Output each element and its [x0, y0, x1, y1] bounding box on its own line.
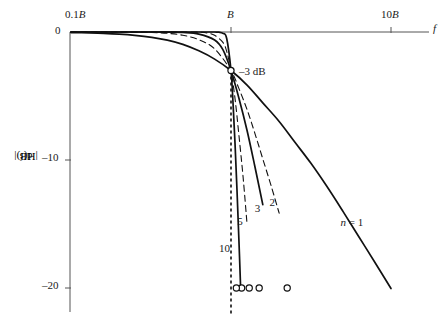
- y-tick-label-minus10: –10: [42, 151, 59, 163]
- y-axis-title: |H(f)|dB: [18, 122, 34, 192]
- curve-n-10: [71, 32, 241, 290]
- data-marker-n-1: [284, 285, 290, 291]
- y-axis-title-subscript: dB: [20, 151, 33, 163]
- curve-n-5: [71, 32, 247, 224]
- x-tick-label-B: B: [227, 8, 234, 20]
- data-marker-n-10: [233, 285, 239, 291]
- x-axis-title: f: [433, 22, 436, 34]
- x-tick-label-0.1B: 0.1B: [65, 8, 85, 20]
- curve-label-n1: n = 1: [341, 216, 364, 228]
- y-tick-label-0: 0: [55, 24, 61, 36]
- curve-label-2: 2: [269, 196, 275, 208]
- curve-label-10: 10: [219, 242, 230, 254]
- butterworth-frequency-response-chart: 0.1B B 10B 0 –10 –20 f |H(f)|dB –3 dB n …: [0, 0, 444, 324]
- x-tick-label-10B: 10B: [381, 8, 399, 20]
- curve-label-3: 3: [255, 202, 261, 214]
- data-marker-n-2: [256, 285, 262, 291]
- curve-n-2: [71, 32, 279, 213]
- cutoff-marker-icon: [228, 67, 234, 73]
- chart-canvas: [0, 0, 444, 324]
- curve-label-5: 5: [237, 215, 243, 227]
- cutoff-annotation-label: –3 dB: [239, 65, 266, 77]
- y-tick-label-minus20: –20: [42, 279, 59, 291]
- data-marker-n-3: [246, 285, 252, 291]
